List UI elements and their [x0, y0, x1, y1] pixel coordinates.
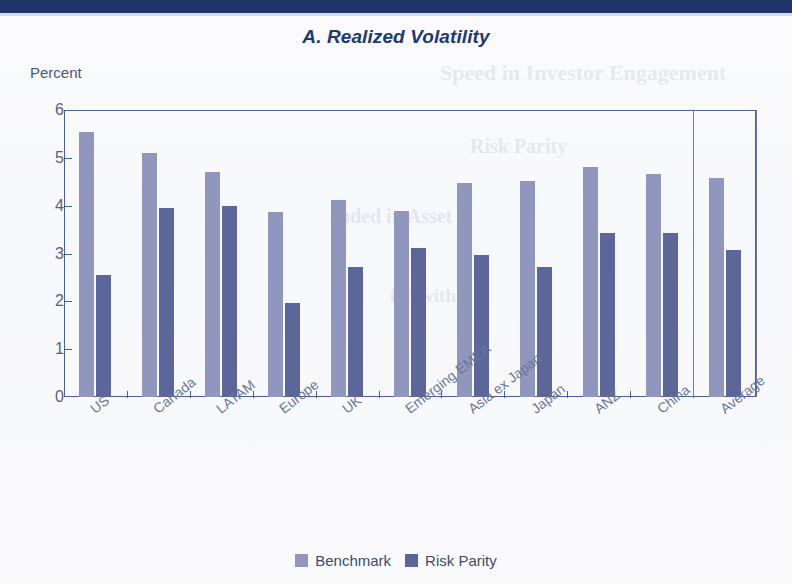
bar-group: [630, 110, 693, 397]
bar-risk-parity[interactable]: [285, 303, 300, 397]
y-tick-label: 3: [40, 245, 64, 263]
bar-group: [253, 110, 316, 397]
y-tick-label: 0: [40, 388, 64, 406]
y-tick-label: 5: [40, 149, 64, 167]
bar-benchmark[interactable]: [394, 211, 409, 397]
legend-item-risk-parity[interactable]: Risk Parity: [405, 552, 497, 569]
page-header-banner-underline: [0, 13, 792, 16]
bar-risk-parity[interactable]: [663, 233, 678, 397]
bar-benchmark[interactable]: [142, 153, 157, 397]
y-axis-unit-label: Percent: [30, 64, 82, 81]
y-tick-label: 6: [40, 101, 64, 119]
bar-benchmark[interactable]: [583, 167, 598, 397]
chart-title: A. Realized Volatility: [0, 26, 792, 48]
highlight-separator-right: [756, 110, 757, 397]
legend-item-benchmark[interactable]: Benchmark: [295, 552, 391, 569]
y-tick-label: 1: [40, 340, 64, 358]
bar-group: [693, 110, 756, 397]
bar-group: [190, 110, 253, 397]
bar-group: [127, 110, 190, 397]
chart-legend: Benchmark Risk Parity: [0, 552, 792, 569]
highlight-separator-left: [693, 110, 694, 397]
bar-benchmark[interactable]: [79, 132, 94, 397]
bar-group: [316, 110, 379, 397]
bar-benchmark[interactable]: [709, 178, 724, 397]
bar-risk-parity[interactable]: [222, 206, 237, 397]
bleed-line-0: Speed in Investor Engagement: [440, 60, 726, 86]
bar-group: [567, 110, 630, 397]
bar-risk-parity[interactable]: [348, 267, 363, 397]
plot-area: [64, 110, 756, 397]
bar-risk-parity[interactable]: [474, 255, 489, 397]
bar-risk-parity[interactable]: [600, 233, 615, 397]
bar-group: [64, 110, 127, 397]
bar-risk-parity[interactable]: [537, 267, 552, 397]
bar-risk-parity[interactable]: [726, 250, 741, 397]
y-axis-tick-labels: 0123456: [44, 110, 64, 397]
legend-label-benchmark: Benchmark: [315, 552, 391, 569]
y-tick-label: 2: [40, 292, 64, 310]
bar-risk-parity[interactable]: [159, 208, 174, 397]
page-header-banner: [0, 0, 792, 13]
bar-benchmark[interactable]: [205, 172, 220, 397]
bar-risk-parity[interactable]: [96, 275, 111, 397]
bar-benchmark[interactable]: [268, 212, 283, 397]
figure-page: Speed in Investor Engagement Risk Parity…: [0, 0, 792, 584]
x-tick-mark: [127, 391, 128, 398]
bar-benchmark[interactable]: [646, 174, 661, 397]
bar-risk-parity[interactable]: [411, 248, 426, 397]
y-tick-label: 4: [40, 197, 64, 215]
x-tick-mark: [379, 391, 380, 398]
legend-swatch-risk-parity-icon: [405, 554, 418, 567]
legend-label-risk-parity: Risk Parity: [425, 552, 497, 569]
legend-swatch-benchmark-icon: [295, 554, 308, 567]
bar-group: [379, 110, 442, 397]
x-tick-mark: [630, 391, 631, 398]
bar-benchmark[interactable]: [331, 200, 346, 397]
